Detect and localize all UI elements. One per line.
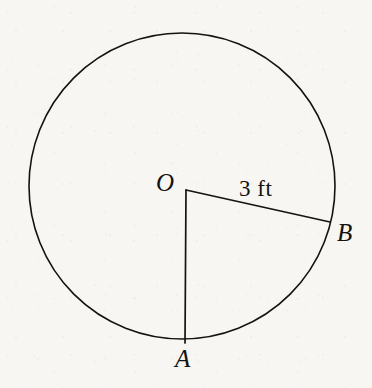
point-label-o: O bbox=[156, 170, 174, 195]
geometry-drawing bbox=[0, 0, 372, 388]
point-label-a: A bbox=[175, 346, 190, 371]
circle-outline bbox=[29, 33, 335, 339]
radius-measurement-label: 3 ft bbox=[239, 177, 272, 200]
circle-sector-figure: O B A 3 ft bbox=[0, 0, 372, 388]
point-label-b: B bbox=[337, 220, 352, 245]
radius-oa-line bbox=[185, 190, 186, 343]
